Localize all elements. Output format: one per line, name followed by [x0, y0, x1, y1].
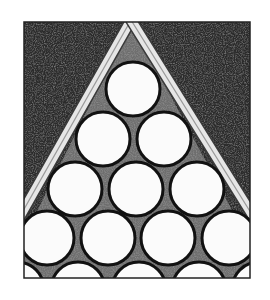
billiard-ball-row4-1: [20, 211, 74, 265]
billiard-ball-row5-2: [51, 262, 105, 300]
billiard-ball-row3-3: [170, 162, 224, 216]
billiard-ball-row5-4: [172, 262, 226, 300]
billiard-ball-row4-3: [141, 211, 195, 265]
billiard-ball-row2-1: [76, 112, 130, 166]
billiard-ball-row4-2: [81, 211, 135, 265]
billiard-ball-row2-2: [137, 112, 191, 166]
billiard-rack-illustration: [0, 0, 270, 300]
billiard-ball-row3-1: [48, 162, 102, 216]
illustration-canvas: Illustration of billiard balls racked in…: [0, 0, 270, 300]
billiard-ball-row1-1: [106, 62, 160, 116]
billiard-ball-row5-3: [112, 262, 166, 300]
billiard-ball-row4-4: [202, 211, 256, 265]
billiard-ball-row3-2: [109, 162, 163, 216]
